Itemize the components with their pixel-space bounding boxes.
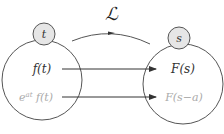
function-f-t: f(t) (32, 62, 52, 76)
laplace-transform-diagram: t f(t) eat f(t) s F(s) F(s−a) ℒ (0, 0, 224, 134)
frequency-variable-label: s (176, 32, 182, 45)
laplace-operator-label: ℒ (105, 3, 119, 24)
time-variable-label: t (42, 28, 47, 41)
shifted-function-exp-f-t: eat f(t) (19, 91, 53, 104)
transform-arc-arrow (72, 34, 150, 44)
transform-arc-arrowhead-icon (108, 32, 115, 36)
frequency-domain-set: s F(s) F(s−a) (143, 27, 223, 124)
time-domain-circle (2, 40, 82, 120)
frequency-domain-circle (143, 44, 223, 124)
transform-F-s: F(s) (170, 62, 195, 76)
transform-F-s-minus-a: F(s−a) (164, 91, 203, 104)
time-domain-set: t f(t) eat f(t) (2, 23, 82, 120)
